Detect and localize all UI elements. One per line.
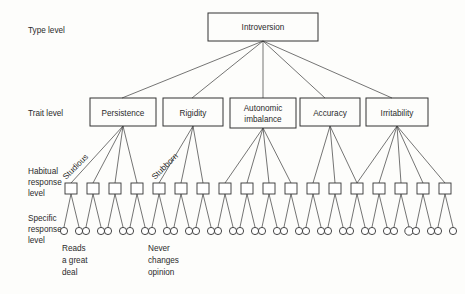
edge-hab4-spec0 — [152, 194, 159, 227]
edge-trait1-hab1 — [181, 126, 193, 183]
trait-node-label-3: Accuracy — [313, 109, 348, 118]
habitual-square-2[interactable] — [109, 183, 121, 194]
trait-node-autonomic-imbalance[interactable]: Autonomic imbalance — [230, 98, 296, 128]
habitual-square-8[interactable] — [241, 183, 253, 194]
edge-hab2-spec1 — [115, 194, 123, 227]
specific-circle-6[interactable] — [126, 227, 133, 234]
specific-circle-35[interactable] — [449, 227, 456, 234]
specific-circle-32[interactable] — [412, 227, 419, 234]
habitual-squares-row — [65, 183, 451, 194]
specific-circle-10[interactable] — [170, 227, 177, 234]
habitual-square-14[interactable] — [373, 183, 385, 194]
habitual-square-3[interactable] — [131, 183, 143, 194]
specific-circle-13[interactable] — [207, 227, 214, 234]
habitual-square-4[interactable] — [153, 183, 165, 194]
edge-hab1-spec1 — [93, 194, 101, 227]
edge-hab9-spec0 — [262, 194, 269, 227]
edge-trait3-hab0 — [313, 126, 330, 183]
specific-circle-18[interactable] — [258, 227, 265, 234]
edge-trait0-hab1 — [93, 126, 123, 183]
caption-1-line-2: opinion — [148, 268, 175, 277]
specific-circle-33[interactable] — [427, 227, 434, 234]
edge-hab13-spec1 — [357, 194, 365, 227]
specific-circle-14[interactable] — [214, 227, 221, 234]
edge-hab11-spec0 — [306, 194, 313, 227]
edge-trait4-hab0 — [357, 126, 397, 183]
habitual-square-15[interactable] — [395, 183, 407, 194]
edge-hab17-spec0 — [438, 194, 445, 227]
habitual-square-0[interactable] — [65, 183, 77, 194]
habitual-square-11[interactable] — [307, 183, 319, 194]
specific-circle-31[interactable] — [405, 227, 413, 235]
specific-circle-8[interactable] — [148, 227, 155, 234]
specific-circle-12[interactable] — [192, 227, 199, 234]
trait-node-accuracy[interactable]: Accuracy — [300, 98, 360, 126]
edge-trait0-hab3 — [123, 126, 137, 183]
edge-hab5-spec0 — [174, 194, 181, 227]
habitual-square-5[interactable] — [175, 183, 187, 194]
edge-hab1-spec0 — [86, 194, 93, 227]
specific-circle-28[interactable] — [368, 227, 375, 234]
edge-hab7-spec0 — [218, 194, 225, 227]
figure-canvas: Type level Trait level Habitual response… — [0, 0, 465, 294]
specific-circle-22[interactable] — [302, 227, 309, 234]
edge-hab6-spec0 — [196, 194, 203, 227]
specific-circle-34[interactable] — [434, 227, 441, 234]
edge-trait2-hab1 — [247, 128, 263, 183]
habitual-square-6[interactable] — [197, 183, 209, 194]
type-node-introversion[interactable]: Introversion — [208, 13, 318, 41]
habitual-square-10[interactable] — [285, 183, 297, 194]
edge-hab2-spec0 — [108, 194, 115, 227]
specific-circle-23[interactable] — [317, 227, 324, 234]
habitual-square-1[interactable] — [87, 183, 99, 194]
trait-node-label-1: Rigidity — [180, 109, 208, 118]
specific-circle-0[interactable] — [60, 227, 67, 234]
specific-circle-30[interactable] — [390, 227, 397, 234]
specific-circle-1[interactable] — [75, 227, 82, 234]
level-label-type: Type level — [28, 26, 65, 35]
specific-circle-2[interactable] — [82, 227, 89, 234]
specific-circle-9[interactable] — [163, 227, 170, 234]
habitual-square-13[interactable] — [351, 183, 363, 194]
specific-circle-3[interactable] — [97, 227, 104, 234]
specific-circle-20[interactable] — [280, 227, 287, 234]
habitual-to-specific-edges — [64, 194, 453, 227]
edge-hab17-spec1 — [445, 194, 453, 227]
level-label-habitual-line-1: response — [28, 178, 62, 187]
annotation-stubborn-label: Stubborn — [150, 151, 180, 181]
specific-circle-4[interactable] — [104, 227, 111, 234]
level-label-specific-line-2: level — [28, 236, 45, 245]
edge-hab4-spec1 — [159, 194, 167, 227]
specific-circle-16[interactable] — [236, 227, 243, 234]
trait-node-irritability[interactable]: Irritability — [366, 98, 428, 126]
specific-circle-24[interactable] — [324, 227, 331, 234]
specific-circle-5[interactable] — [119, 227, 126, 234]
specific-circle-11[interactable] — [185, 227, 192, 234]
caption-1-line-1: changes — [148, 256, 179, 265]
specific-circle-7[interactable] — [141, 227, 148, 234]
habitual-square-17[interactable] — [439, 183, 451, 194]
edge-type-trait-4 — [263, 41, 392, 98]
edge-hab14-spec1 — [379, 194, 387, 227]
specific-circle-25[interactable] — [339, 227, 346, 234]
edge-trait4-hab4 — [397, 126, 445, 183]
trait-node-rigidity[interactable]: Rigidity — [163, 98, 223, 126]
specific-circle-19[interactable] — [273, 227, 280, 234]
edge-trait4-hab2 — [397, 126, 401, 183]
habitual-square-9[interactable] — [263, 183, 275, 194]
specific-circle-15[interactable] — [229, 227, 236, 234]
habitual-square-12[interactable] — [329, 183, 341, 194]
trait-node-persistence[interactable]: Persistence — [90, 98, 156, 126]
specific-circle-29[interactable] — [383, 227, 390, 234]
edge-hab10-spec0 — [284, 194, 291, 227]
habitual-square-7[interactable] — [219, 183, 231, 194]
specific-circle-21[interactable] — [295, 227, 302, 234]
caption-0-line-1: a great — [62, 256, 88, 265]
specific-circle-27[interactable] — [361, 227, 368, 234]
specific-circle-17[interactable] — [251, 227, 258, 234]
specific-circle-26[interactable] — [346, 227, 353, 234]
edge-trait4-hab3 — [397, 126, 423, 183]
annotation-stubborn: Stubborn — [150, 151, 180, 181]
habitual-square-16[interactable] — [417, 183, 429, 194]
level-label-type-line-0: Type level — [28, 26, 65, 35]
